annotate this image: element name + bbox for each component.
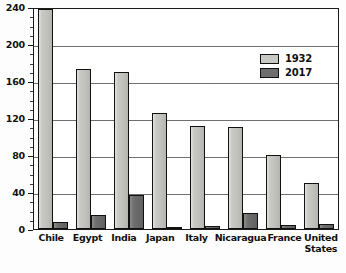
legend-item: 1932 [260, 53, 312, 64]
bar-2017-italy [205, 226, 220, 229]
bar-2017-united-states [319, 224, 334, 229]
x-axis-label-line: Nicaragua [215, 232, 267, 243]
x-axis-label-italy: Italy [178, 232, 214, 254]
x-axis-label-line: France [266, 232, 302, 243]
bar-chart: 04080120160200240 1932 2017 ChileEgyptIn… [0, 0, 346, 273]
x-axis-label-united-states: UnitedStates [303, 232, 339, 254]
legend: 1932 2017 [260, 53, 312, 78]
x-axis-label-japan: Japan [142, 232, 178, 254]
bar-group-united-states [300, 9, 338, 229]
legend-swatch-1932 [260, 54, 279, 64]
bar-1932-egypt [76, 69, 91, 229]
bar-group-nicaragua [224, 9, 262, 229]
plot-area: 1932 2017 [33, 8, 339, 230]
y-tick-label-120: 120 [0, 113, 25, 124]
y-tick-label-240: 240 [0, 2, 25, 13]
legend-swatch-2017 [260, 68, 279, 78]
bar-groups [34, 9, 338, 229]
bar-2017-nicaragua [243, 213, 258, 229]
x-axis-label-nicaragua: Nicaragua [215, 232, 267, 254]
bar-2017-egypt [91, 215, 106, 229]
x-axis-label-line: Egypt [69, 232, 105, 243]
y-tick-label-160: 160 [0, 76, 25, 87]
x-axis-labels: ChileEgyptIndiaJapanItalyNicaraguaFrance… [33, 232, 339, 254]
y-tick-label-200: 200 [0, 39, 25, 50]
bar-1932-france [266, 155, 281, 229]
x-axis-label-line: Japan [142, 232, 178, 243]
y-tick-label-80: 80 [0, 150, 25, 161]
bar-group-france [262, 9, 300, 229]
x-axis-label-line: Italy [178, 232, 214, 243]
y-tick-label-40: 40 [0, 187, 25, 198]
bar-group-egypt [72, 9, 110, 229]
x-axis-label-line: States [303, 243, 339, 254]
y-tick-label-0: 0 [0, 224, 25, 235]
x-axis-label-france: France [266, 232, 302, 254]
bar-2017-france [281, 225, 296, 229]
x-axis-label-line: Chile [33, 232, 69, 243]
x-axis-label-line: United [303, 232, 339, 243]
y-tick-major-0 [28, 230, 33, 231]
legend-label-1932: 1932 [285, 53, 312, 64]
legend-item: 2017 [260, 67, 312, 78]
bar-group-india [110, 9, 148, 229]
x-axis-label-egypt: Egypt [69, 232, 105, 254]
bar-group-italy [186, 9, 224, 229]
legend-label-2017: 2017 [285, 67, 312, 78]
bar-2017-india [129, 195, 144, 229]
bar-1932-nicaragua [228, 127, 243, 229]
bar-group-japan [148, 9, 186, 229]
bar-1932-united-states [304, 183, 319, 229]
bar-2017-japan [167, 227, 182, 229]
x-axis-label-chile: Chile [33, 232, 69, 254]
x-axis-label-india: India [106, 232, 142, 254]
x-axis-label-line: India [106, 232, 142, 243]
bar-1932-japan [152, 113, 167, 229]
bar-1932-india [114, 72, 129, 229]
bar-1932-italy [190, 126, 205, 229]
bar-group-chile [34, 9, 72, 229]
bar-2017-chile [53, 222, 68, 229]
bar-1932-chile [38, 9, 53, 229]
